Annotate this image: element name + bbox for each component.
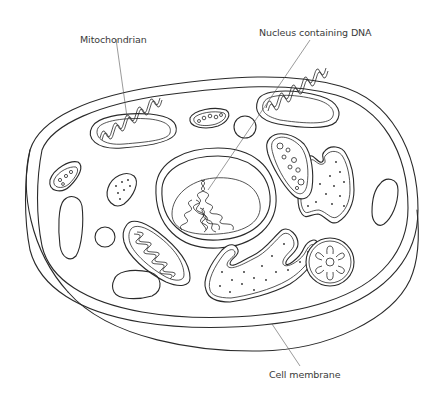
dotted-vesicle-left [107,174,136,206]
lysosome-flower [306,238,354,286]
leader-membrane [272,324,300,366]
label-cell-membrane: Cell membrane [269,369,340,380]
vesicle-circle-left [95,227,115,247]
small-organelle-left [50,162,81,191]
small-organelle-top [190,108,229,128]
nucleus [156,148,276,248]
vesicle-organelle-right [267,134,313,199]
leader-mitochondrion [116,39,127,117]
vacuole-left [59,197,83,259]
label-nucleus: Nucleus containing DNA [259,27,372,38]
cell-illustration [0,0,436,407]
vacuole-right [372,179,398,225]
vesicle-circle-top [234,116,256,138]
cell-diagram: Mitochondrian Nucleus containing DNA Cel… [0,0,436,407]
label-mitochondrion: Mitochondrian [80,34,147,45]
mitochondrion-top-left [90,98,176,148]
